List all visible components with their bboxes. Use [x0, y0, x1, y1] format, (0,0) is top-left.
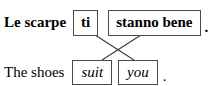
source-chunk-stanno-bene: stanno bene — [108, 10, 200, 36]
source-language-row: Le scarpe ti stanno bene . — [0, 9, 220, 36]
target-chunk-suit: suit — [72, 60, 112, 85]
target-language-row: The shoes suit you . — [0, 59, 220, 85]
connector-ti-to-you — [95, 35, 134, 60]
target-lead-text: The shoes — [0, 65, 72, 80]
target-terminal-period: . — [158, 69, 167, 85]
source-terminal-period: . — [201, 20, 209, 36]
target-chunk-you: you — [118, 60, 158, 85]
gloss-alignment-figure: Le scarpe ti stanno bene . The shoes sui… — [0, 0, 220, 86]
source-chunk-ti: ti — [73, 10, 98, 36]
source-lead-text: Le scarpe — [0, 15, 73, 30]
connector-stanno-bene-to-suit — [102, 35, 141, 60]
